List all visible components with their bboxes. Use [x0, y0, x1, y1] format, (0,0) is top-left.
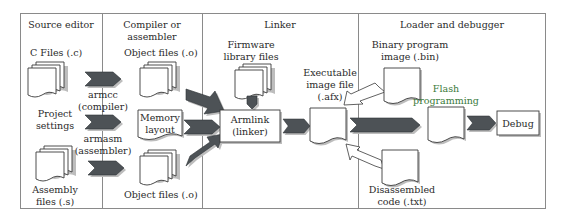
section-compiler-line1: Compiler or — [123, 19, 181, 30]
debug-arrow-icon — [467, 116, 497, 132]
assembly-files-label-1: Assembly — [31, 184, 78, 195]
firmware-label-1: Firmware — [227, 39, 275, 50]
armlink-label-2: (linker) — [232, 126, 268, 137]
firmware-arrow-icon — [247, 96, 259, 111]
armcc-label-1: armcc — [88, 89, 118, 100]
memory-layout-label-1: Memory — [140, 112, 181, 123]
txt-output-arrow-icon — [346, 144, 384, 169]
object-files-bottom-doc-icon — [140, 150, 180, 185]
section-source-editor: Source editor — [28, 19, 94, 30]
binary-label-2: image (.bin) — [381, 51, 439, 62]
armasm-label-2: (assembler) — [75, 145, 132, 156]
flash-arrow-icon — [350, 118, 422, 134]
armlink-label-1: Armlink — [230, 114, 270, 125]
assembly-files-label-2: files (.s) — [36, 196, 74, 207]
executable-doc-icon — [310, 108, 348, 146]
section-linker: Linker — [264, 19, 296, 30]
disassembled-label-1: Disassembled — [369, 184, 435, 195]
project-settings-arrow-icon — [85, 115, 123, 131]
debug-label: Debug — [502, 118, 534, 129]
flash-label-1: Flash — [433, 83, 459, 94]
binary-label-1: Binary program — [372, 39, 448, 50]
c-files-doc-icon — [28, 62, 68, 97]
project-settings-label-1: Project — [38, 108, 73, 119]
armasm-label-1: armasm — [84, 133, 123, 144]
object-files-bottom-label: Object files (.o) — [124, 189, 198, 200]
memory-layout-label-2: layout — [145, 124, 175, 135]
armcc-label-2: (compiler) — [78, 101, 128, 112]
project-settings-label-2: settings — [36, 120, 74, 131]
armcc-arrow-icon — [85, 72, 123, 88]
executable-label-1: Executable — [303, 67, 357, 78]
object-files-bottom-arrow-icon — [186, 134, 225, 168]
flash-label-2: programming — [413, 95, 479, 106]
executable-label-3: (.afx) — [318, 91, 343, 102]
assembly-files-doc-icon — [36, 146, 76, 181]
armlink-output-arrow-icon — [283, 119, 312, 135]
executable-label-2: image file — [306, 79, 354, 90]
flash-doc-icon — [428, 107, 466, 145]
section-compiler-line2: assembler — [127, 31, 177, 42]
firmware-label-2: library files — [223, 51, 278, 62]
section-loader: Loader and debugger — [400, 19, 505, 30]
object-files-top-label: Object files (.o) — [124, 47, 198, 58]
toolchain-flow-diagram: Source editor Compiler or assembler Link… — [0, 0, 564, 221]
disassembled-doc-icon — [382, 150, 420, 188]
disassembled-label-2: code (.txt) — [377, 196, 426, 207]
object-files-top-doc-icon — [140, 62, 180, 97]
firmware-doc-icon — [235, 64, 275, 99]
memory-layout-arrow-icon — [184, 120, 222, 136]
armasm-arrow-icon — [88, 161, 126, 177]
c-files-label: C Files (.c) — [30, 47, 82, 58]
